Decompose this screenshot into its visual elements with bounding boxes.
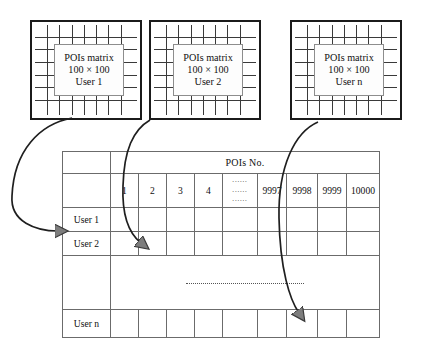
cell-user1-cell[interactable] xyxy=(223,208,258,232)
matrix-label-1-line3: User 1 xyxy=(76,76,103,88)
col-header-2: 2 xyxy=(139,174,167,208)
cell-user1-c9998[interactable] xyxy=(287,208,318,232)
cell-usern-c2[interactable] xyxy=(139,310,167,338)
cell-user2-cell[interactable] xyxy=(223,232,258,256)
col-header-1: 1 xyxy=(111,174,139,208)
matrix-label-3-line2: 100 × 100 xyxy=(328,64,369,76)
table-header-poi-no: POIs No. xyxy=(111,152,380,174)
cell-user1-c2[interactable] xyxy=(139,208,167,232)
matrix-box-3: POIs matrix 100 × 100 User n xyxy=(290,20,402,120)
matrix-label-3-line1: POIs matrix xyxy=(324,52,374,64)
row-label-user-n: User n xyxy=(63,310,111,338)
table-row-user-1: User 1 xyxy=(63,208,380,232)
cell-usern-c4[interactable] xyxy=(195,310,223,338)
col-header-4: 4 xyxy=(195,174,223,208)
poi-table: POIs No. 1 2 3 4 ...... ...... ...... 99… xyxy=(62,151,379,337)
cell-usern-c10000[interactable] xyxy=(347,310,380,338)
row-label-user-1: User 1 xyxy=(63,208,111,232)
matrix-label-1-line1: POIs matrix xyxy=(64,52,114,64)
ellipsis-dots-row-2: ...... xyxy=(223,186,257,195)
col-header-3: 3 xyxy=(167,174,195,208)
table-row-user-n: User n xyxy=(63,310,380,338)
matrix-label-2: POIs matrix 100 × 100 User 2 xyxy=(173,44,243,96)
matrix-label-1: POIs matrix 100 × 100 User 1 xyxy=(54,44,124,96)
cell-user2-c9997[interactable] xyxy=(258,232,287,256)
cell-user1-c10000[interactable] xyxy=(347,208,380,232)
cell-user2-c9999[interactable] xyxy=(318,232,347,256)
matrix-label-2-line1: POIs matrix xyxy=(183,52,233,64)
cell-usern-c9998[interactable] xyxy=(287,310,318,338)
matrix-label-1-line2: 100 × 100 xyxy=(68,64,109,76)
cell-user1-c3[interactable] xyxy=(167,208,195,232)
matrix-label-3: POIs matrix 100 × 100 User n xyxy=(314,44,384,96)
cell-user1-c1[interactable] xyxy=(111,208,139,232)
col-header-9997: 9997 xyxy=(258,174,287,208)
cell-usern-c1[interactable] xyxy=(111,310,139,338)
matrix-box-2: POIs matrix 100 × 100 User 2 xyxy=(149,20,261,120)
cell-user2-c1[interactable] xyxy=(111,232,139,256)
col-header-9999: 9999 xyxy=(318,174,347,208)
diagram-root: POIs matrix 100 × 100 User 1 POIs matrix… xyxy=(0,0,423,361)
matrix-box-1: POIs matrix 100 × 100 User 1 xyxy=(30,20,142,120)
cell-usern-cell[interactable] xyxy=(223,310,258,338)
cell-usern-c9997[interactable] xyxy=(258,310,287,338)
poi-table-grid: POIs No. 1 2 3 4 ...... ...... ...... 99… xyxy=(62,151,380,338)
cell-user1-c4[interactable] xyxy=(195,208,223,232)
table-header-row-title: POIs No. xyxy=(63,152,380,174)
row-label-ellipsis xyxy=(63,256,111,310)
ellipsis-dots-row-3: ...... xyxy=(223,195,257,204)
cell-usern-c9999[interactable] xyxy=(318,310,347,338)
table-row-ellipsis xyxy=(63,256,380,310)
table-row-user-2: User 2 xyxy=(63,232,380,256)
col-header-ellipsis: ...... ...... ...... xyxy=(223,174,258,208)
vertical-ellipsis-dots xyxy=(186,283,304,284)
col-header-9998: 9998 xyxy=(287,174,318,208)
ellipsis-dots-row-1: ...... xyxy=(223,176,257,185)
cell-user2-c4[interactable] xyxy=(195,232,223,256)
matrix-label-2-line3: User 2 xyxy=(195,76,222,88)
cell-usern-c3[interactable] xyxy=(167,310,195,338)
cell-user2-c10000[interactable] xyxy=(347,232,380,256)
cell-user2-c9998[interactable] xyxy=(287,232,318,256)
row-label-user-2: User 2 xyxy=(63,232,111,256)
cell-user1-c9997[interactable] xyxy=(258,208,287,232)
table-corner-cell-2 xyxy=(63,174,111,208)
cell-user1-c9999[interactable] xyxy=(318,208,347,232)
ellipsis-span-cell xyxy=(111,256,380,310)
matrix-label-3-line3: User n xyxy=(336,76,363,88)
table-corner-cell xyxy=(63,152,111,174)
table-header-row-columns: 1 2 3 4 ...... ...... ...... 9997 9998 9… xyxy=(63,174,380,208)
matrix-label-2-line2: 100 × 100 xyxy=(187,64,228,76)
col-header-10000: 10000 xyxy=(347,174,380,208)
cell-user2-c2[interactable] xyxy=(139,232,167,256)
cell-user2-c3[interactable] xyxy=(167,232,195,256)
